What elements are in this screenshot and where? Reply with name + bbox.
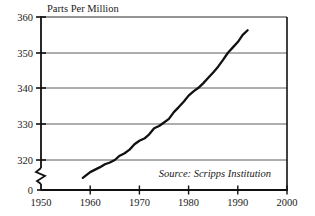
x-tick-label-2000: 2000: [277, 197, 298, 208]
y-tick-label-320: 320: [17, 155, 33, 166]
y-tick-label-0: 0: [28, 185, 33, 196]
y-tick-label-360: 360: [17, 12, 33, 23]
x-tick-label-1970: 1970: [129, 197, 150, 208]
y-tick-label-340: 340: [17, 83, 33, 94]
y-tick-label-350: 350: [17, 48, 33, 59]
co2-line-chart: Parts Per Million 360 350 340 330 320 0 …: [0, 0, 315, 216]
source-annotation: Source: Scripps Institution: [159, 168, 271, 179]
y-tick-label-330: 330: [17, 119, 33, 130]
x-tick-label-1960: 1960: [80, 197, 101, 208]
y-axis-label: Parts Per Million: [47, 3, 120, 14]
chart-background: [0, 0, 315, 216]
x-tick-label-1990: 1990: [227, 197, 248, 208]
chart-figure: Parts Per Million 360 350 340 330 320 0 …: [0, 0, 315, 216]
x-tick-label-1980: 1980: [178, 197, 199, 208]
x-tick-label-1950: 1950: [31, 197, 52, 208]
